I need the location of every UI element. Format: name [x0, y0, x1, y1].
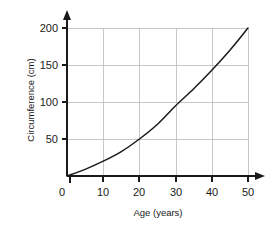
y-axis	[62, 10, 71, 176]
y-axis-title: Circumference (cm)	[25, 58, 36, 141]
x-tick-label-50: 50	[242, 186, 254, 198]
x-tick-label-0: 0	[59, 186, 65, 198]
y-tick-label-50: 50	[46, 133, 58, 145]
line-chart-canvas: 50 100 150 200 0 10 20 30 40 50 Age (yea…	[0, 0, 276, 227]
x-tick-label-30: 30	[170, 186, 182, 198]
y-tick-label-150: 150	[40, 59, 58, 71]
x-tick-label-40: 40	[206, 186, 218, 198]
x-axis-title: Age (years)	[133, 207, 182, 218]
x-axis	[67, 172, 265, 183]
y-axis-arrow-icon	[63, 10, 71, 20]
x-tick-label-20: 20	[133, 186, 145, 198]
x-tick-label-10: 10	[97, 186, 109, 198]
y-tick-label-100: 100	[40, 96, 58, 108]
x-tick-labels: 0 10 20 30 40 50	[59, 186, 254, 198]
x-axis-arrow-icon	[255, 172, 265, 180]
horizontal-gridlines	[67, 28, 248, 139]
chart-figure: 50 100 150 200 0 10 20 30 40 50 Age (yea…	[0, 0, 276, 227]
y-tick-labels: 50 100 150 200	[40, 22, 58, 145]
y-tick-label-200: 200	[40, 22, 58, 34]
